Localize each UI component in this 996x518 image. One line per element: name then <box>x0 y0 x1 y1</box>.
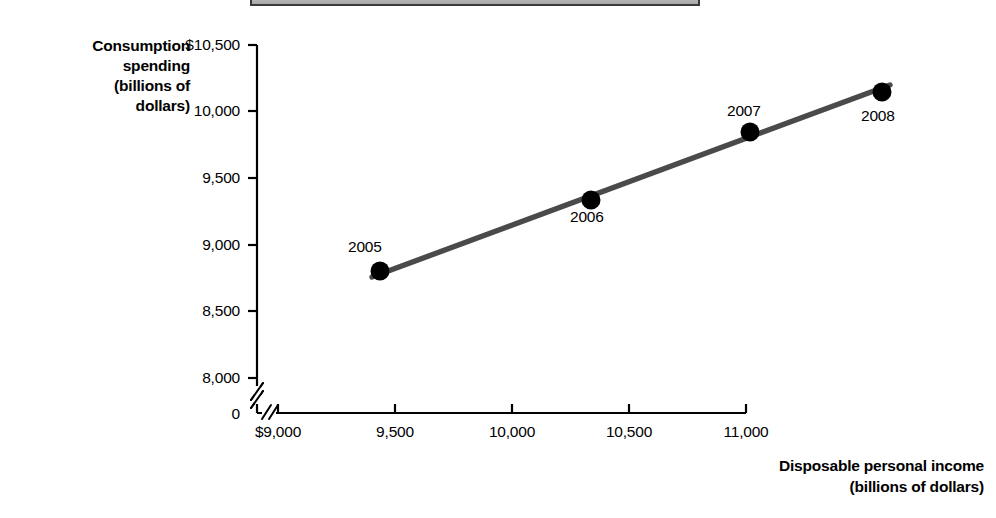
y-tick-label-9000: 9,000 <box>126 237 240 253</box>
y-axis-title-line-2: spending <box>8 56 190 76</box>
x-axis-title: Disposable personal income (billions of … <box>560 455 984 497</box>
x-axis-title-line-1: Disposable personal income <box>560 455 984 476</box>
data-label-2005: 2005 <box>348 239 382 255</box>
x-tick-label-9000: $9,000 <box>255 424 301 440</box>
data-point-2008 <box>873 83 892 102</box>
data-point-2006 <box>582 191 601 210</box>
y-tick-label-8000: 8,000 <box>126 370 240 386</box>
data-point-2005 <box>371 262 390 281</box>
x-tick-label-10000: 10,000 <box>489 424 535 440</box>
y-tick-label-9500: 9,500 <box>126 170 240 186</box>
y-axis-zero-label: 0 <box>126 406 240 422</box>
y-tick-label-10000: 10,000 <box>126 103 240 119</box>
y-tick-label-10500: $10,500 <box>126 37 240 53</box>
data-label-2006: 2006 <box>570 209 604 225</box>
y-axis-title-line-3: (billions of <box>8 76 190 96</box>
y-axis-ticks <box>248 45 257 378</box>
x-tick-label-11000: 11,000 <box>723 424 768 440</box>
x-axis-ticks <box>278 404 746 413</box>
x-axis-title-line-2: (billions of dollars) <box>560 476 984 497</box>
data-label-2008: 2008 <box>861 108 895 124</box>
x-tick-label-10500: 10,500 <box>606 424 652 440</box>
data-label-2007: 2007 <box>727 103 761 119</box>
y-tick-label-8500: 8,500 <box>126 303 240 319</box>
x-tick-label-9500: 9,500 <box>376 424 414 440</box>
data-point-2007 <box>741 123 760 142</box>
consumption-function-line <box>372 85 890 277</box>
